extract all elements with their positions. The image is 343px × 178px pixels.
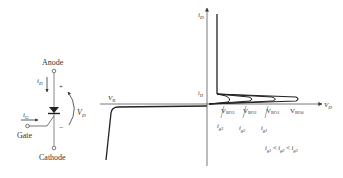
anode-label: Anode	[42, 58, 64, 67]
scr-symbol: Anode Gate iG iD Cathode + − VD	[17, 58, 86, 162]
gate-terminal	[26, 124, 30, 128]
anode-terminal	[52, 69, 56, 73]
gate-label: Gate	[17, 131, 33, 140]
vbo0-label: VBO0	[290, 107, 304, 115]
vbo1-label: VBO1	[266, 107, 280, 115]
vi-characteristic: iD VD VR iH VBO3 VBO2 VBO1 VBO0 ig3 ig2 …	[100, 8, 332, 166]
minus-sign: −	[59, 123, 64, 132]
vbo2-label: VBO2	[243, 107, 257, 115]
x-axis-label: VD	[324, 101, 332, 110]
vbo3-label: VBO3	[221, 107, 235, 115]
gate-lead	[29, 116, 54, 126]
holding-current-label: iH	[198, 90, 204, 98]
voltage-arrow-icon	[68, 92, 74, 125]
gate-current-label: iG	[23, 111, 29, 120]
ig3-label: ig3	[217, 122, 224, 131]
y-axis-label: iD	[198, 11, 204, 20]
voltage-label: VD	[77, 108, 86, 118]
thyristor-diagram: Anode Gate iG iD Cathode + − VD iD VD VR	[0, 0, 343, 178]
reverse-curve	[106, 106, 207, 160]
forward-curve-ig3	[209, 94, 230, 104]
cathode-label: Cathode	[39, 153, 66, 162]
ig2-label: ig2	[239, 124, 246, 133]
ig1-label: ig1	[261, 124, 267, 133]
reverse-voltage-label: VR	[108, 94, 115, 103]
diode-triangle-icon	[49, 107, 59, 113]
gate-current-inequality: ig1 < ig2 < ig3	[265, 144, 299, 153]
cathode-terminal	[52, 146, 56, 150]
plus-sign: +	[59, 83, 63, 91]
anode-current-label: iD	[37, 77, 43, 86]
